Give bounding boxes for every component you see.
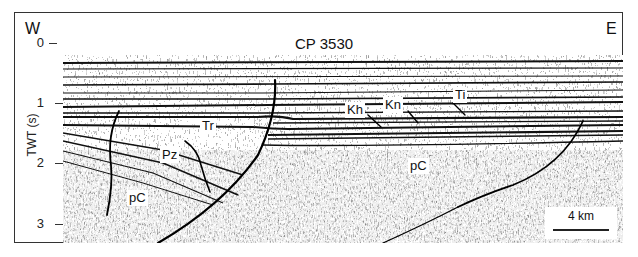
scale-bar-label: 4 km bbox=[545, 209, 617, 223]
unit-label-pz: Pz bbox=[160, 147, 179, 163]
y-axis-label: TWT (s) bbox=[25, 113, 39, 156]
seismic-image bbox=[63, 55, 623, 243]
east-label: E bbox=[606, 20, 617, 38]
tick-mark bbox=[55, 163, 63, 164]
profile-title: CP 3530 bbox=[295, 35, 353, 52]
unit-label-pc-west: pC bbox=[127, 190, 148, 206]
unit-label-pc-center: pC bbox=[408, 158, 429, 174]
unit-label-tr: Tr bbox=[200, 118, 216, 134]
scale-bar-line bbox=[553, 229, 609, 231]
tick-label-3: 3 bbox=[30, 216, 44, 231]
unit-label-kn: Kn bbox=[383, 97, 403, 113]
tick-mark bbox=[55, 224, 63, 225]
unit-label-kh: Kh bbox=[345, 102, 365, 118]
tick-label-2: 2 bbox=[30, 155, 44, 170]
tick-label-0: 0 bbox=[30, 35, 44, 50]
seismic-section: Ti Kn Kh Tr Pz pC pC bbox=[63, 55, 623, 243]
scale-bar: 4 km bbox=[545, 207, 617, 239]
unit-label-ti: Ti bbox=[453, 87, 467, 103]
tick-mark bbox=[55, 103, 63, 104]
tick-mark bbox=[49, 43, 57, 44]
tick-label-1: 1 bbox=[30, 95, 44, 110]
